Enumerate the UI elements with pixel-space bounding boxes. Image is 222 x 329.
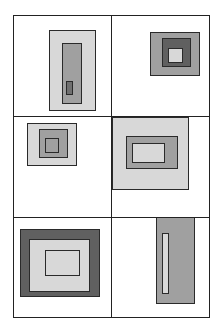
grid-col-divider — [111, 15, 112, 317]
grid-border-right — [209, 15, 210, 317]
cell-2-rect-3 — [168, 48, 183, 63]
cell-3-rect-3 — [45, 138, 59, 153]
grid-border-left — [13, 15, 14, 317]
grid-border-bottom — [13, 317, 210, 318]
cell-5-rect-3 — [45, 250, 80, 276]
diagram-canvas — [0, 0, 222, 329]
cell-1-rect-3 — [66, 81, 73, 95]
grid-row-divider-2 — [13, 217, 209, 218]
cell-6-rect-2 — [162, 233, 169, 294]
cell-4-rect-3 — [132, 143, 165, 163]
grid-row-divider-1 — [13, 116, 209, 117]
